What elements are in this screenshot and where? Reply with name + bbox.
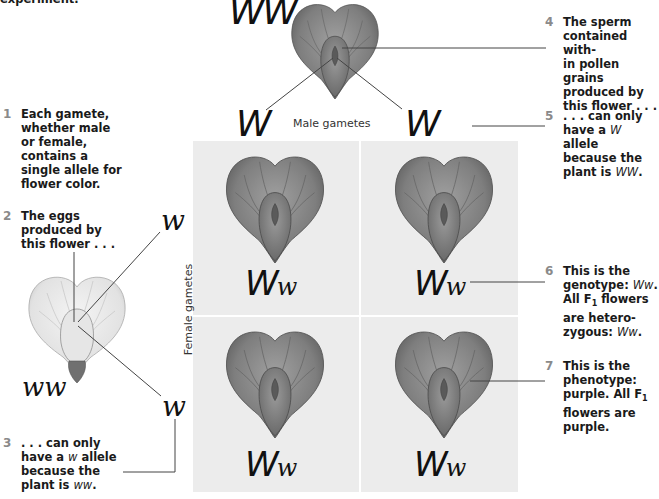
note-4: 4 The sperm contained with- in pollen gr…	[563, 15, 659, 113]
offspring-flower-2	[395, 157, 492, 263]
female-allele-bottom: w	[162, 393, 186, 421]
note-2: 2 The eggs produced by this flower . . .	[21, 209, 115, 251]
male-gametes-label: Male gametes	[293, 117, 371, 130]
female-gametes-label: Female gametes	[182, 260, 195, 360]
note-1: 1 Each gamete, whether male or female, c…	[21, 107, 122, 191]
offspring-flower-1	[226, 157, 323, 263]
female-allele-top: w	[161, 207, 185, 235]
parent-left-genotype: ww	[22, 373, 67, 401]
note-5: 5 . . . can only have a W allele because…	[563, 109, 659, 179]
parent-top-genotype: WW	[229, 0, 296, 30]
parent-flower-top	[292, 5, 379, 99]
note-3: 3 . . . can only have a w allele because…	[21, 436, 117, 492]
parent-flower-left	[29, 277, 125, 383]
offspring-genotype-3: Ww	[245, 447, 297, 488]
connector-lines	[74, 48, 546, 472]
offspring-flower-3	[226, 332, 323, 438]
offspring-genotype-1: Ww	[245, 266, 297, 307]
offspring-flower-4	[395, 332, 492, 438]
offspring-genotype-4: Ww	[414, 447, 466, 488]
note-6: 6 This is the genotype: Ww. All F1 flowe…	[563, 264, 658, 339]
note-7: 7 This is the phenotype: purple. All F1 …	[563, 359, 648, 434]
male-allele-left: W	[236, 106, 270, 142]
male-allele-right: W	[405, 106, 439, 142]
offspring-genotype-2: Ww	[414, 266, 466, 307]
